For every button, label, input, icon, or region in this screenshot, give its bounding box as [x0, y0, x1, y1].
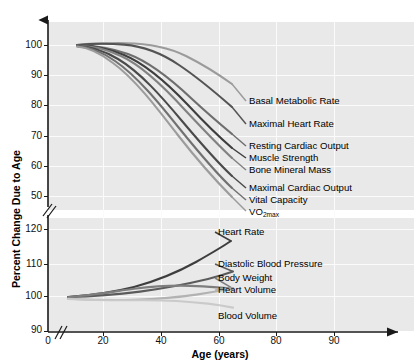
x-axis-title: Age (years) [150, 348, 290, 360]
vo2max-subscript: 2max [263, 211, 279, 218]
y-tick [44, 105, 48, 106]
label-basal-metabolic-rate: Basal Metabolic Rate [249, 95, 340, 106]
x-tick [103, 332, 104, 336]
curve-bone-mineral-mass [77, 46, 232, 158]
label-maximal-heart-rate: Maximal Heart Rate [249, 118, 334, 129]
x-tick-label: 40 [146, 335, 176, 346]
x-tick [219, 332, 220, 336]
y-tick [44, 166, 48, 167]
curve-heart-rate [68, 241, 231, 297]
y-tick [44, 296, 48, 297]
x-tick-label: 80 [261, 335, 291, 346]
y-tick [44, 196, 48, 197]
curve-muscle-strength [77, 45, 232, 148]
y-tick-label: 100 [16, 39, 42, 50]
label-resting-cardiac-output: Resting Cardiac Output [249, 140, 349, 151]
y-tick [44, 229, 48, 230]
curve-maximal-cardiac-output [77, 46, 232, 176]
y-tick-label: 70 [16, 130, 42, 141]
label-diastolic-blood-pressure: Diastolic Blood Pressure [218, 258, 323, 269]
label-vital-capacity: Vital Capacity [249, 194, 307, 205]
label-heart-volume: Heart Volume [218, 284, 276, 295]
y-tick [44, 45, 48, 46]
x-tick [334, 332, 335, 336]
y-tick-label: 90 [16, 324, 42, 335]
curve-body-weight [68, 286, 233, 298]
x-tick [276, 332, 277, 336]
x-tick-label: 20 [88, 335, 118, 346]
y-tick [44, 75, 48, 76]
y-tick-label: 80 [16, 99, 42, 110]
label-vo2max: VO2max [249, 206, 279, 217]
y-axis-title: Percent Change Due to Age [10, 150, 22, 288]
x-tick-label: 90 [319, 335, 349, 346]
x-tick-label: 60 [204, 335, 234, 346]
label-bone-mineral-mass: Bone Mineral Mass [249, 164, 331, 175]
y-tick-label: 100 [16, 290, 42, 301]
label-heart-rate: Heart Rate [218, 226, 264, 237]
x-tick [161, 332, 162, 336]
y-tick-label: 90 [16, 69, 42, 80]
y-tick [44, 136, 48, 137]
label-muscle-strength: Muscle Strength [249, 152, 318, 163]
label-maximal-cardiac-output: Maximal Cardiac Output [249, 182, 352, 193]
label-blood-volume: Blood Volume [218, 310, 277, 321]
vo2max-text: VO [249, 206, 263, 217]
label-body-weight: Body Weight [218, 272, 272, 283]
curve-blood-volume [68, 299, 233, 308]
y-tick [44, 331, 48, 332]
axis-break-marks [43, 204, 67, 339]
y-tick [44, 264, 48, 265]
x-tick-label: 0 [33, 335, 63, 346]
